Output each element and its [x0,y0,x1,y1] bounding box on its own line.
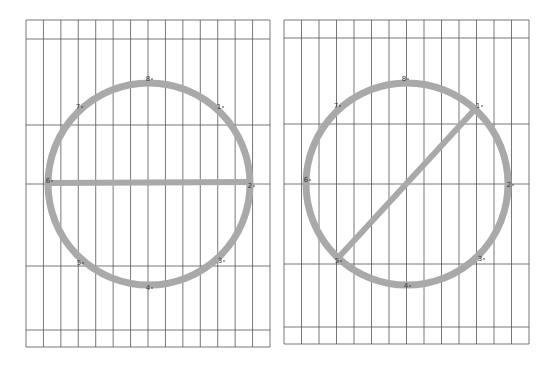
point-marker [512,184,514,186]
point-marker [222,106,224,108]
point-marker [151,78,153,80]
point-marker [340,260,342,262]
point-label-7: 7 [334,102,338,110]
point-marker [151,287,153,289]
point-label-6: 6 [46,177,51,185]
point-marker [481,105,483,107]
chord-1-5 [338,107,477,258]
chord-6-2 [48,182,250,183]
point-marker [51,180,53,182]
right-panel: 81234567 [284,20,529,344]
point-label-6: 6 [304,176,309,184]
left-panel: 81234567 [26,20,270,347]
point-marker [407,78,409,80]
point-marker [309,179,311,181]
point-label-1: 1 [476,102,480,110]
point-marker [409,285,411,287]
point-marker [223,260,225,262]
point-label-7: 7 [76,103,80,111]
point-label-8: 8 [146,75,150,83]
point-marker [339,105,341,107]
point-label-5: 5 [335,257,339,265]
point-label-2: 2 [248,182,252,190]
point-label-4: 4 [404,282,409,290]
diagram-canvas: 81234567 81234567 [0,0,559,368]
point-marker [81,106,83,108]
point-marker [82,262,84,264]
point-label-5: 5 [77,259,81,267]
point-label-2: 2 [507,181,511,189]
point-label-1: 1 [217,103,221,111]
point-marker [483,258,485,260]
point-marker [253,185,255,187]
point-label-3: 3 [478,255,482,263]
point-label-3: 3 [218,257,222,265]
point-label-4: 4 [146,284,151,292]
point-label-8: 8 [402,75,406,83]
